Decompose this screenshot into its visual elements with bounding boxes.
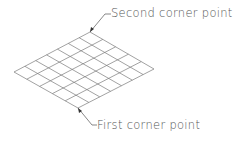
first-corner-label: First corner point xyxy=(97,118,200,132)
diagram-canvas: Second corner point First corner point xyxy=(0,0,249,147)
second-corner-leader xyxy=(90,14,111,32)
second-corner-label: Second corner point xyxy=(111,6,233,20)
first-corner-leader xyxy=(78,108,97,125)
